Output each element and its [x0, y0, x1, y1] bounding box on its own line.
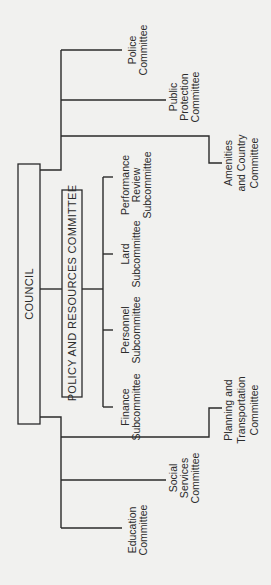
personnel-subcommittee-node: Personnel Subcommittee	[119, 296, 142, 363]
performance-review-subcommittee-node: Performance Review Subcommittee	[119, 151, 153, 218]
council-node: COUNCIL	[18, 164, 40, 424]
lard-line-2: Subcommittee	[130, 220, 142, 287]
education-committee-node: Education Committee	[126, 504, 149, 555]
public-protection-line-3: Committee	[189, 71, 201, 122]
planning-line-2: Transportation	[235, 376, 247, 443]
org-chart-canvas: COUNCIL POLICY AND RESOURCES COMMITTEE P…	[0, 0, 271, 585]
policy-resources-label: POLICY AND RESOURCES COMMITTEE	[66, 185, 78, 402]
police-line-2: Committee	[137, 24, 149, 75]
public-protection-committee-node: Public Protection Committee	[167, 71, 201, 122]
personnel-line-2: Subcommittee	[130, 296, 142, 363]
amenities-country-committee-node: Amenities and Country Committee	[222, 134, 260, 192]
planning-line-3: Committee	[248, 384, 260, 435]
planning-transportation-committee-node: Planning and Transportation Committee	[222, 376, 260, 443]
connector-council-to-lower-trunk	[40, 417, 61, 528]
council-label: COUNCIL	[23, 268, 35, 320]
social-services-committee-node: Social Services Committee	[167, 452, 201, 503]
org-chart: COUNCIL POLICY AND RESOURCES COMMITTEE P…	[0, 0, 271, 585]
amenities-line-3: Committee	[248, 137, 260, 188]
planning-line-1: Planning and	[222, 379, 234, 440]
policy-resources-node: POLICY AND RESOURCES COMMITTEE	[62, 185, 82, 402]
police-committee-node: Police Committee	[126, 24, 149, 75]
finance-line-2: Subcommittee	[130, 373, 142, 440]
performance-line-3: Subcommittee	[141, 151, 153, 218]
lard-subcommittee-node: Lard Subcommittee	[119, 220, 142, 287]
social-line-3: Committee	[189, 452, 201, 503]
connector-council-to-upper-trunk	[40, 50, 61, 170]
amenities-line-2: and Country	[235, 134, 247, 192]
finance-subcommittee-node: Finance Subcommittee	[119, 373, 142, 440]
amenities-line-1: Amenities	[222, 140, 234, 186]
education-line-2: Committee	[137, 504, 149, 555]
